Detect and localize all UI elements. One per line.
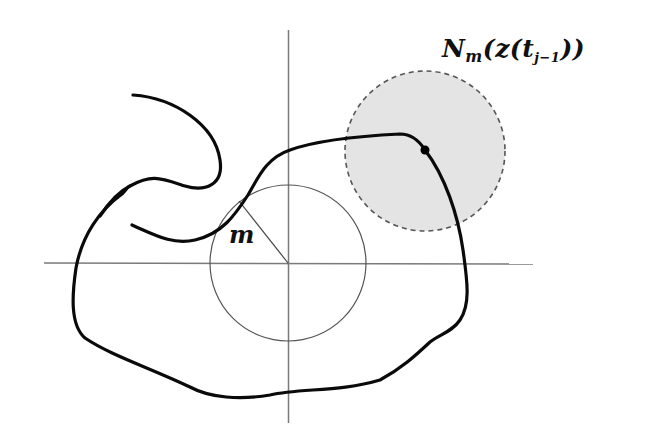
label-t: t [522, 34, 534, 63]
neighborhood-label: Nm(z(tj−1)) [442, 34, 585, 66]
marked-point [421, 146, 430, 155]
label-paren-close: )) [560, 34, 585, 63]
diagram-figure: Nm(z(tj−1)) m [0, 0, 663, 444]
label-sub-m: m [465, 47, 482, 66]
label-paren: ( [483, 34, 495, 63]
label-sub-j-minus-1: j−1 [534, 50, 560, 65]
diagram-canvas [0, 0, 663, 444]
radius-label: m [229, 220, 254, 249]
label-n: N [442, 34, 465, 63]
label-paren: ( [510, 34, 522, 63]
label-z: z [495, 34, 510, 63]
